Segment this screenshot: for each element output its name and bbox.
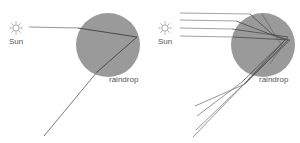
sun-icon: [10, 22, 23, 35]
light-ray-exit: [44, 72, 97, 136]
raindrop-circle: [76, 13, 140, 77]
raindrop-label: raindrop: [259, 75, 288, 84]
light-ray: [29, 27, 78, 28]
sun-label: Sun: [158, 37, 172, 46]
sun-icon: [159, 22, 172, 35]
rainbow-diagram: [0, 0, 300, 143]
sun-label: Sun: [9, 37, 23, 46]
raindrop-label: raindrop: [109, 75, 138, 84]
